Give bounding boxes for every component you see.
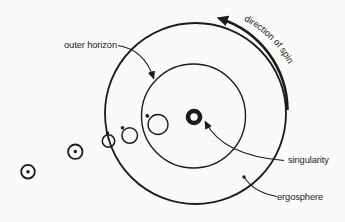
singularity-label: singularity bbox=[288, 155, 329, 165]
singularity-ring bbox=[188, 111, 200, 123]
black-hole-diagram: outer horizon direction of spin singular… bbox=[0, 0, 345, 222]
ergosphere-pointer-dot bbox=[242, 175, 245, 178]
particle-dot-4 bbox=[121, 126, 125, 130]
particle-dot-3 bbox=[106, 131, 109, 134]
diagram-canvas: outer horizon direction of spin singular… bbox=[0, 0, 345, 222]
spin-arrow bbox=[220, 19, 288, 111]
infalling-particles bbox=[21, 114, 168, 179]
outer-horizon-label: outer horizon bbox=[64, 40, 117, 50]
outer-horizon-circle bbox=[142, 64, 246, 168]
particle-orbit-4 bbox=[122, 128, 138, 144]
particle-dot-2 bbox=[74, 150, 77, 153]
ergosphere-label: ergosphere bbox=[277, 192, 323, 202]
particle-dot-1 bbox=[26, 170, 29, 173]
particle-dot-5 bbox=[145, 114, 149, 118]
outer-horizon-arrow bbox=[118, 46, 154, 79]
direction-of-spin-label: direction of spin bbox=[243, 13, 296, 65]
particle-orbit-5 bbox=[148, 115, 168, 135]
